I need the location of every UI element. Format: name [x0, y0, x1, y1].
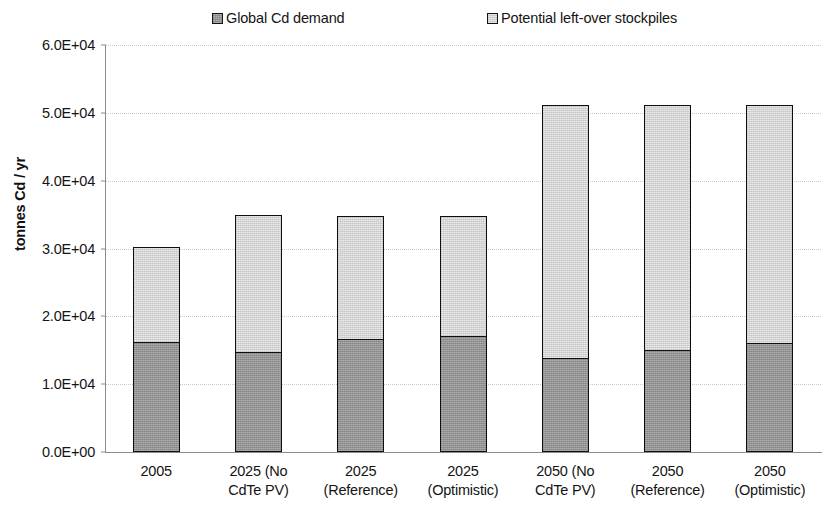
x-axis-tick-label-line: 2050: [712, 462, 826, 481]
x-axis-tick-label-line: 2025: [405, 462, 521, 481]
stacked-bar[interactable]: [235, 216, 282, 452]
bar-group[interactable]: [440, 45, 487, 452]
y-axis-tick-label: 0.0E+00: [0, 444, 95, 460]
y-axis-tick-label: 2.0E+04: [0, 308, 95, 324]
bar-segment-global-cd-demand[interactable]: [644, 350, 691, 452]
stacked-bar[interactable]: [542, 106, 589, 452]
bar-group[interactable]: [133, 45, 180, 452]
bar-segment-potential-stockpiles[interactable]: [746, 105, 793, 344]
bar-group[interactable]: [337, 45, 384, 452]
x-axis-tick-label-line: (Reference): [609, 481, 725, 500]
stacked-bar[interactable]: [644, 106, 691, 452]
x-axis-tick-label-line: (Optimistic): [712, 481, 826, 500]
x-axis-tick-label-line: 2005: [98, 462, 214, 481]
stacked-bar[interactable]: [440, 218, 487, 452]
bar-segment-potential-stockpiles[interactable]: [542, 105, 589, 360]
bar-segment-potential-stockpiles[interactable]: [337, 216, 384, 341]
y-axis-ticks: 0.0E+001.0E+042.0E+043.0E+044.0E+045.0E+…: [0, 45, 100, 452]
bar-segment-global-cd-demand[interactable]: [133, 342, 180, 452]
x-axis-tick-label-line: 2050 (No: [507, 462, 623, 481]
bar-segment-global-cd-demand[interactable]: [542, 358, 589, 452]
x-axis-tick-label-line: CdTe PV): [200, 481, 316, 500]
bar-group[interactable]: [542, 45, 589, 452]
x-axis-tick-label: 2005: [98, 462, 214, 481]
x-axis-tick-label: 2050(Reference): [609, 462, 725, 500]
chart-container: Global Cd demand Potential left-over sto…: [0, 0, 826, 525]
legend-swatch-icon-stockpiles: [487, 13, 498, 24]
x-axis-tick-label-line: (Optimistic): [405, 481, 521, 500]
stacked-bar[interactable]: [133, 248, 180, 452]
x-axis-tick-label: 2025(Reference): [303, 462, 419, 500]
legend-label-stockpiles: Potential left-over stockpiles: [501, 10, 677, 26]
legend-entry-potential-stockpiles: Potential left-over stockpiles: [487, 10, 677, 26]
x-axis-tick-label: 2050 (NoCdTe PV): [507, 462, 623, 500]
x-axis-tick-label-line: (Reference): [303, 481, 419, 500]
bar-group[interactable]: [235, 45, 282, 452]
x-axis-labels: 20052025 (NoCdTe PV)2025(Reference)2025(…: [105, 462, 821, 522]
bar-segment-potential-stockpiles[interactable]: [133, 247, 180, 344]
x-axis-tick-label-line: CdTe PV): [507, 481, 623, 500]
stacked-bar[interactable]: [337, 217, 384, 452]
bar-segment-potential-stockpiles[interactable]: [440, 216, 487, 337]
chart-legend: Global Cd demand Potential left-over sto…: [0, 8, 826, 34]
bar-segment-global-cd-demand[interactable]: [746, 343, 793, 452]
y-axis-tick-label: 3.0E+04: [0, 241, 95, 257]
x-axis-tick-label: 2025(Optimistic): [405, 462, 521, 500]
y-axis-tick-label: 5.0E+04: [0, 105, 95, 121]
bar-group[interactable]: [644, 45, 691, 452]
bar-segment-potential-stockpiles[interactable]: [644, 105, 691, 352]
bar-segment-global-cd-demand[interactable]: [440, 336, 487, 452]
legend-label-demand: Global Cd demand: [226, 10, 345, 26]
x-axis-tick-label: 2025 (NoCdTe PV): [200, 462, 316, 500]
legend-entry-global-cd-demand: Global Cd demand: [212, 10, 345, 26]
bar-segment-potential-stockpiles[interactable]: [235, 215, 282, 354]
x-axis-tick-label-line: 2050: [609, 462, 725, 481]
y-axis-tick-label: 4.0E+04: [0, 173, 95, 189]
bar-series-area: [105, 45, 821, 452]
x-axis-tick-label: 2050(Optimistic): [712, 462, 826, 500]
x-axis-line: [105, 452, 822, 453]
bar-segment-global-cd-demand[interactable]: [235, 352, 282, 452]
stacked-bar[interactable]: [746, 107, 793, 452]
bar-segment-global-cd-demand[interactable]: [337, 339, 384, 452]
y-axis-tick-label: 1.0E+04: [0, 376, 95, 392]
y-axis-tick-label: 6.0E+04: [0, 37, 95, 53]
bar-group[interactable]: [746, 45, 793, 452]
x-axis-tick-label-line: 2025 (No: [200, 462, 316, 481]
x-axis-tick-label-line: 2025: [303, 462, 419, 481]
legend-swatch-icon-demand: [212, 13, 223, 24]
